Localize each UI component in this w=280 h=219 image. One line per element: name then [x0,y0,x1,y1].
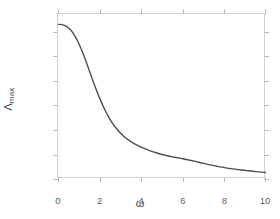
xtick-top-6 [183,9,184,14]
ytick-0.05 [53,56,58,57]
ytick-0.04 [53,81,58,82]
xtick-top-2 [100,9,101,14]
ytick-0.02 [53,130,58,131]
xtick-top-0 [58,9,59,14]
xtick-top-8 [224,9,225,14]
ytick-right-0.03 [264,105,269,106]
figure-canvas: 0 0.01 0.02 0.03 0.04 0.05 0.06 0 2 4 6 … [0,0,280,219]
x-axis-title: ω [0,197,280,209]
lambda-max-curve [58,14,266,179]
y-axis-title-symbol: Λ [2,103,15,111]
xtick-0 [58,177,59,182]
ytick-right-0.05 [264,56,269,57]
xtick-8 [224,177,225,182]
ytick-right-0.02 [264,130,269,131]
xtick-top-10 [265,9,266,14]
y-axis-title: Λmax [2,69,16,129]
ytick-right-0.06 [264,32,269,33]
xtick-6 [183,177,184,182]
y-axis-title-subscript: max [7,87,16,103]
ytick-0.03 [53,105,58,106]
series-line-lambda-max [58,24,266,172]
ytick-right-0.01 [264,155,269,156]
xtick-4 [141,177,142,182]
xtick-2 [100,177,101,182]
xtick-top-4 [141,9,142,14]
ytick-right-0.04 [264,81,269,82]
plot-axes: 0 0.01 0.02 0.03 0.04 0.05 0.06 0 2 4 6 … [57,13,265,178]
y-axis-title-wrap: Λmax [2,72,16,132]
ytick-0.06 [53,32,58,33]
ytick-0.01 [53,155,58,156]
xtick-10 [265,177,266,182]
